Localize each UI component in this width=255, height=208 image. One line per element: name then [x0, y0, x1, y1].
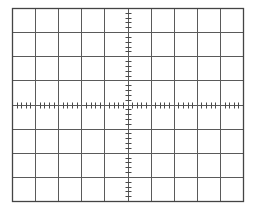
- oscilloscope-graticule: [0, 0, 255, 208]
